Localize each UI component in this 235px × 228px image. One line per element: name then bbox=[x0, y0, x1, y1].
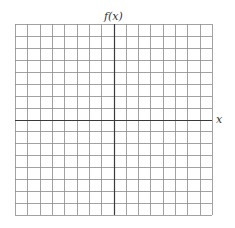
y-axis-label: f(x) bbox=[104, 11, 123, 22]
coordinate-grid bbox=[0, 0, 235, 228]
x-axis-label: x bbox=[216, 114, 222, 125]
coordinate-grid-figure: f(x) x bbox=[0, 0, 235, 228]
